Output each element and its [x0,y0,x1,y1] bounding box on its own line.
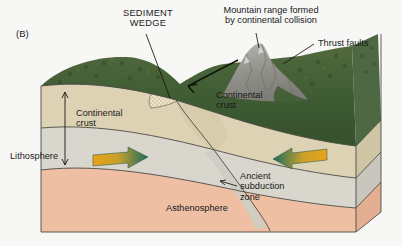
label-lithosphere: Lithosphere [10,151,58,161]
panel-label: (B) [16,29,29,40]
figure-panel: (B) SEDIMENT WEDGE Mountain range formed… [0,0,402,246]
callout-thrust-faults: Thrust faults [318,38,369,48]
label-asthenosphere: Asthenosphere [166,203,228,213]
callout-sediment-wedge: SEDIMENT WEDGE [110,8,186,29]
callout-mountain-range: Mountain range formed by continental col… [206,5,336,26]
callout-ancient-subduction-zone: Ancient subduction zone [240,171,284,202]
label-continental-crust-left: Continental crust [76,108,122,129]
label-continental-crust-right: Continental crust [216,90,262,111]
